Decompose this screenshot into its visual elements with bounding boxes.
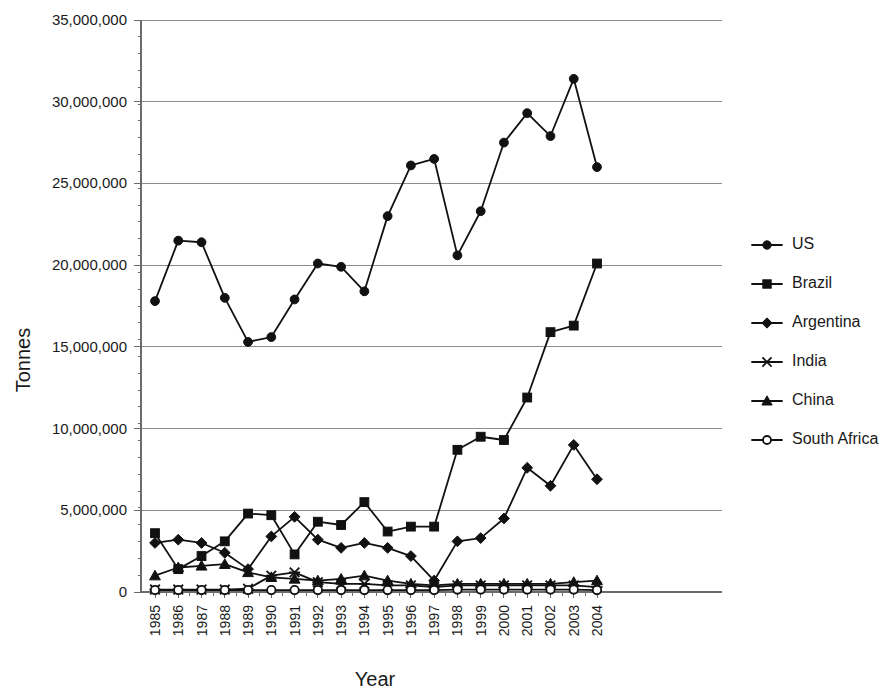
y-tick-labels-group: 05,000,00010,000,00015,000,00020,000,000… <box>52 11 127 600</box>
data-point-open-circle <box>360 586 368 594</box>
data-point-filled-circle <box>593 163 602 172</box>
data-point-open-circle <box>546 585 554 593</box>
data-point-filled-circle <box>197 238 206 247</box>
legend-item-us[interactable]: US <box>752 235 814 252</box>
x-tick-label: 1995 <box>380 605 396 636</box>
x-tick-label: 1999 <box>473 605 489 636</box>
data-point-filled-circle <box>220 293 229 302</box>
data-point-filled-square <box>500 436 509 445</box>
data-point-open-circle <box>244 586 252 594</box>
data-point-filled-square <box>290 550 299 559</box>
data-point-open-circle <box>337 586 345 594</box>
data-point-filled-square <box>360 498 369 507</box>
data-point-filled-square <box>383 527 392 536</box>
legend-label: South Africa <box>792 430 878 447</box>
series-us <box>151 74 602 346</box>
x-tick-label: 1991 <box>287 605 303 636</box>
data-point-open-circle <box>174 586 182 594</box>
data-point-filled-diamond <box>568 440 579 451</box>
data-point-filled-circle <box>267 333 276 342</box>
data-point-filled-square <box>453 445 462 454</box>
data-point-filled-square <box>337 521 346 530</box>
data-point-filled-circle <box>546 132 555 141</box>
data-point-filled-circle <box>430 155 439 164</box>
x-tick-labels-group: 1985198619871988198919901991199219931994… <box>147 605 605 636</box>
data-point-filled-square <box>406 522 415 531</box>
x-tick-label: 1985 <box>147 605 163 636</box>
data-point-filled-square <box>313 517 322 526</box>
series-brazil <box>151 259 602 573</box>
legend-item-south-africa[interactable]: South Africa <box>752 430 878 447</box>
data-point-filled-diamond <box>592 474 603 485</box>
x-tick-label: 2000 <box>496 605 512 636</box>
data-point-filled-circle <box>151 297 160 306</box>
data-point-open-circle <box>500 585 508 593</box>
data-point-filled-diamond <box>336 542 347 553</box>
x-tick-label: 2004 <box>589 605 605 636</box>
data-point-open-circle <box>523 585 531 593</box>
data-point-open-circle <box>453 585 461 593</box>
data-point-filled-square <box>763 280 771 288</box>
data-point-open-circle <box>290 586 298 594</box>
x-tick-label: 1993 <box>333 605 349 636</box>
x-tick-label: 2003 <box>566 605 582 636</box>
data-point-open-circle <box>430 586 438 594</box>
legend-item-brazil[interactable]: Brazil <box>752 274 832 291</box>
legend-item-india[interactable]: India <box>752 352 827 369</box>
series-line <box>155 264 597 570</box>
data-point-filled-circle <box>476 207 485 216</box>
y-tick-label: 30,000,000 <box>52 93 127 110</box>
data-point-filled-diamond <box>196 538 207 549</box>
data-point-open-circle <box>593 586 601 594</box>
x-tick-label: 2002 <box>542 605 558 636</box>
data-point-filled-circle <box>406 161 415 170</box>
data-point-filled-circle <box>244 338 253 347</box>
line-chart: 05,000,00010,000,00015,000,00020,000,000… <box>0 0 895 694</box>
axes-group <box>134 20 722 598</box>
data-series-group <box>149 74 602 594</box>
x-tick-label: 1994 <box>356 605 372 636</box>
x-tick-label: 2001 <box>519 605 535 636</box>
legend-item-china[interactable]: China <box>752 391 834 408</box>
x-tick-label: 1986 <box>170 605 186 636</box>
data-point-filled-circle <box>313 259 322 268</box>
data-point-filled-diamond <box>382 542 393 553</box>
data-point-filled-circle <box>763 241 771 249</box>
data-point-filled-diamond <box>452 536 463 547</box>
x-tick-label: 1998 <box>449 605 465 636</box>
data-point-filled-square <box>197 552 206 561</box>
data-point-filled-circle <box>453 251 462 260</box>
data-point-filled-circle <box>360 287 369 296</box>
data-point-filled-circle <box>569 74 578 83</box>
data-point-open-circle <box>267 586 275 594</box>
y-tick-label: 0 <box>119 583 127 600</box>
data-point-open-circle <box>151 586 159 594</box>
data-point-filled-diamond <box>219 547 230 558</box>
data-point-filled-circle <box>174 236 183 245</box>
data-point-filled-triangle <box>359 570 370 580</box>
chart-container: 05,000,00010,000,00015,000,00020,000,000… <box>0 0 895 694</box>
legend-item-argentina[interactable]: Argentina <box>752 313 861 330</box>
data-point-open-circle <box>197 586 205 594</box>
y-tick-label: 35,000,000 <box>52 11 127 28</box>
data-point-filled-square <box>151 529 160 538</box>
legend-label: China <box>792 391 834 408</box>
x-tick-label: 1987 <box>194 605 210 636</box>
legend-label: US <box>792 235 814 252</box>
x-tick-label: 1996 <box>403 605 419 636</box>
data-point-filled-square <box>267 511 276 520</box>
data-point-open-circle <box>570 585 578 593</box>
data-point-filled-circle <box>523 109 532 118</box>
y-axis-title: Tonnes <box>12 328 34 393</box>
data-point-open-circle <box>407 586 415 594</box>
legend-group: USBrazilArgentinaIndiaChinaSouth Africa <box>752 235 878 447</box>
x-tick-label: 1992 <box>310 605 326 636</box>
legend-label: India <box>792 352 827 369</box>
x-tick-label: 1988 <box>217 605 233 636</box>
y-tick-label: 20,000,000 <box>52 256 127 273</box>
data-point-filled-diamond <box>173 534 184 545</box>
data-point-open-circle <box>383 586 391 594</box>
data-point-filled-circle <box>337 262 346 271</box>
data-point-filled-square <box>546 328 555 337</box>
data-point-cross-star <box>762 357 772 366</box>
